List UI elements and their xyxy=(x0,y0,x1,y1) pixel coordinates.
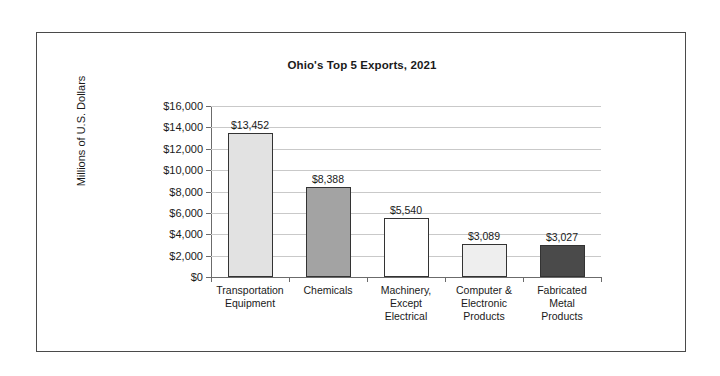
x-axis-category-label: FabricatedMetalProducts xyxy=(523,284,601,323)
bar-value-label: $8,388 xyxy=(312,173,344,185)
category-label-line: Products xyxy=(541,310,582,322)
y-tick-mark xyxy=(206,256,211,257)
plot-area: $16,000$14,000$12,000$10,000$8,000$6,000… xyxy=(211,106,601,277)
category-label-line: Fabricated xyxy=(537,284,587,296)
y-tick-mark xyxy=(206,127,211,128)
x-axis-category-label: Chemicals xyxy=(289,284,367,297)
y-tick-mark xyxy=(206,213,211,214)
x-tick-mark xyxy=(211,277,212,282)
bar: $13,452 xyxy=(228,133,273,277)
y-tick-mark xyxy=(206,106,211,107)
bar-value-label: $3,089 xyxy=(468,230,500,242)
category-label-line: Electronic xyxy=(461,297,507,309)
x-tick-mark xyxy=(523,277,524,282)
gridline xyxy=(211,127,601,128)
category-label-line: Electrical xyxy=(385,310,428,322)
x-axis-category-label: Machinery,ExceptElectrical xyxy=(367,284,445,323)
category-label-line: Computer & xyxy=(456,284,512,296)
bar: $3,089 xyxy=(462,244,507,277)
y-tick-label: $6,000 xyxy=(169,207,203,219)
bar: $8,388 xyxy=(306,187,351,277)
chart-frame: Ohio's Top 5 Exports, 2021 Millions of U… xyxy=(36,32,686,352)
x-axis-line xyxy=(211,277,601,278)
category-label-line: Metal xyxy=(549,297,575,309)
y-tick-mark xyxy=(206,192,211,193)
y-tick-label: $0 xyxy=(191,271,203,283)
gridline xyxy=(211,106,601,107)
bar: $3,027 xyxy=(540,245,585,277)
category-label-line: Products xyxy=(463,310,504,322)
category-label-line: Chemicals xyxy=(303,284,352,296)
y-tick-label: $10,000 xyxy=(163,164,203,176)
x-tick-mark xyxy=(445,277,446,282)
chart-title: Ohio's Top 5 Exports, 2021 xyxy=(37,59,687,71)
y-axis-title: Millions of U.S. Dollars xyxy=(75,41,87,221)
bar-value-label: $13,452 xyxy=(231,119,269,131)
screenshot-root: Ohio's Top 5 Exports, 2021 Millions of U… xyxy=(0,0,720,376)
y-tick-label: $12,000 xyxy=(163,143,203,155)
y-tick-label: $16,000 xyxy=(163,100,203,112)
x-tick-mark xyxy=(289,277,290,282)
y-tick-label: $8,000 xyxy=(169,186,203,198)
y-tick-label: $2,000 xyxy=(169,250,203,262)
y-tick-label: $14,000 xyxy=(163,121,203,133)
bar-value-label: $3,027 xyxy=(546,231,578,243)
x-axis-category-label: Computer &ElectronicProducts xyxy=(445,284,523,323)
category-label-line: Transportation xyxy=(216,284,283,296)
y-tick-mark xyxy=(206,149,211,150)
y-tick-label: $4,000 xyxy=(169,228,203,240)
x-axis-category-label: TransportationEquipment xyxy=(211,284,289,310)
x-tick-mark xyxy=(601,277,602,282)
category-label-line: Machinery, xyxy=(381,284,432,296)
bar-value-label: $5,540 xyxy=(390,204,422,216)
category-label-line: Except xyxy=(390,297,422,309)
category-label-line: Equipment xyxy=(225,297,275,309)
x-tick-mark xyxy=(367,277,368,282)
bar: $5,540 xyxy=(384,218,429,277)
y-tick-mark xyxy=(206,234,211,235)
y-tick-mark xyxy=(206,170,211,171)
